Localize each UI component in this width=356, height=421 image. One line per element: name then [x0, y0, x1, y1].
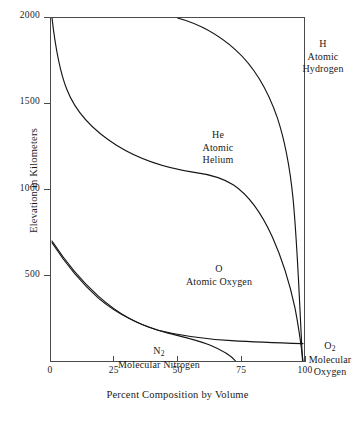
region-name-h-line1: Atomic: [287, 51, 356, 64]
region-formula-n2-subscript: 2: [161, 349, 165, 358]
region-formula-n2: N2: [99, 345, 219, 359]
region-formula-o2-base: O: [324, 340, 331, 351]
curve-layer: [51, 18, 304, 361]
y-tick-mark-1000: [44, 189, 50, 190]
region-formula-n2-base: N: [153, 345, 160, 356]
x-tick-mark-100: [305, 356, 306, 362]
region-formula-h: H: [287, 38, 356, 51]
plot-area: H Atomic Hydrogen He Atomic Helium O Ato…: [50, 17, 305, 362]
curve-nitrogen-oxygen: [52, 241, 303, 344]
y-tick-mark-2000: [44, 17, 50, 18]
x-tick-mark-0: [50, 356, 51, 362]
x-axis-title: Percent Composition by Volume: [50, 389, 305, 400]
x-tick-label-25: 25: [94, 365, 134, 375]
region-label-atomic-hydrogen: H Atomic Hydrogen: [287, 38, 356, 76]
y-tick-label-2000: 2000: [0, 10, 40, 20]
y-axis-title: Elevation in Kilometers: [28, 31, 39, 331]
region-name-o-line1: Atomic Oxygen: [169, 276, 269, 289]
region-label-atomic-oxygen: O Atomic Oxygen: [169, 263, 269, 288]
region-name-h-line2: Hydrogen: [287, 63, 356, 76]
x-tick-label-75: 75: [221, 365, 261, 375]
x-tick-mark-75: [241, 356, 242, 362]
x-tick-mark-50: [177, 356, 178, 362]
region-formula-o: O: [169, 263, 269, 276]
region-formula-o2-subscript: 2: [332, 344, 336, 353]
y-tick-label-500: 500: [0, 269, 40, 279]
y-tick-mark-1500: [44, 103, 50, 104]
curve-oxygen-helium: [52, 18, 303, 361]
region-formula-o2: O2: [299, 340, 356, 354]
y-tick-label-1500: 1500: [0, 96, 40, 106]
region-name-he-line1: Atomic: [182, 142, 254, 155]
curve-molecular-oxygen: [52, 243, 236, 361]
x-tick-mark-25: [113, 356, 114, 362]
region-formula-he: He: [182, 129, 254, 142]
y-tick-label-1000: 1000: [0, 183, 40, 193]
x-tick-label-0: 0: [30, 365, 70, 375]
region-name-he-line2: Helium: [182, 154, 254, 167]
region-label-atomic-helium: He Atomic Helium: [182, 129, 254, 167]
y-tick-mark-500: [44, 275, 50, 276]
x-tick-label-50: 50: [158, 365, 198, 375]
x-tick-label-100: 100: [285, 365, 325, 375]
